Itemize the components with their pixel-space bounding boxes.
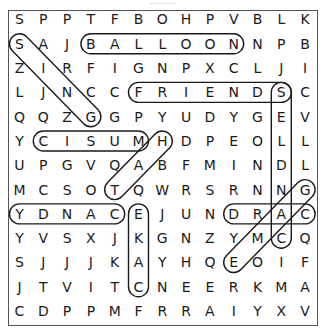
grid-cell[interactable]: R [222, 275, 246, 299]
grid-cell[interactable]: J [103, 226, 127, 250]
grid-cell[interactable]: F [293, 250, 317, 274]
grid-cell[interactable]: Z [198, 226, 222, 250]
grid-cell[interactable]: A [127, 153, 151, 177]
grid-cell[interactable]: B [150, 153, 174, 177]
grid-cell[interactable]: C [31, 129, 55, 153]
grid-cell[interactable]: T [103, 177, 127, 201]
grid-cell[interactable]: S [8, 32, 32, 56]
grid-cell[interactable]: O [79, 177, 103, 201]
grid-cell[interactable]: N [150, 56, 174, 80]
grid-cell[interactable]: P [31, 153, 55, 177]
grid-cell[interactable]: I [31, 56, 55, 80]
grid-cell[interactable]: V [31, 226, 55, 250]
grid-cell[interactable]: O [198, 32, 222, 56]
grid-cell[interactable]: N [222, 80, 246, 104]
grid-cell[interactable]: V [55, 275, 79, 299]
grid-cell[interactable]: D [198, 105, 222, 129]
grid-cell[interactable]: Y [8, 202, 32, 226]
grid-cell[interactable]: Y [8, 226, 32, 250]
grid-cell[interactable]: C [103, 202, 127, 226]
grid-cell[interactable]: A [269, 202, 293, 226]
grid-cell[interactable]: M [269, 275, 293, 299]
grid-cell[interactable]: H [174, 7, 198, 31]
grid-cell[interactable]: A [31, 32, 55, 56]
grid-cell[interactable]: L [8, 80, 32, 104]
grid-cell[interactable]: N [150, 275, 174, 299]
grid-cell[interactable]: Y [8, 129, 32, 153]
grid-cell[interactable]: E [198, 80, 222, 104]
grid-cell[interactable]: Y [222, 226, 246, 250]
grid-cell[interactable]: L [269, 129, 293, 153]
grid-cell[interactable]: E [269, 105, 293, 129]
grid-cell[interactable]: L [150, 32, 174, 56]
grid-cell[interactable]: R [246, 202, 270, 226]
grid-cell[interactable]: C [8, 299, 32, 323]
grid-cell[interactable]: F [79, 56, 103, 80]
grid-cell[interactable]: B [246, 7, 270, 31]
grid-cell[interactable]: N [269, 177, 293, 201]
grid-cell[interactable]: N [174, 226, 198, 250]
grid-cell[interactable]: R [55, 56, 79, 80]
grid-cell[interactable]: J [31, 80, 55, 104]
grid-cell[interactable]: D [269, 153, 293, 177]
grid-cell[interactable]: C [293, 202, 317, 226]
grid-cell[interactable]: T [31, 275, 55, 299]
grid-cell[interactable]: P [55, 299, 79, 323]
grid-cell[interactable]: L [293, 153, 317, 177]
grid-cell[interactable]: G [127, 56, 151, 80]
grid-cell[interactable]: F [103, 7, 127, 31]
grid-cell[interactable]: L [246, 56, 270, 80]
grid-cell[interactable]: N [55, 202, 79, 226]
grid-cell[interactable]: P [198, 129, 222, 153]
grid-cell[interactable]: N [246, 32, 270, 56]
grid-cell[interactable]: C [127, 275, 151, 299]
grid-cell[interactable]: Y [150, 250, 174, 274]
grid-cell[interactable]: Q [103, 153, 127, 177]
grid-cell[interactable]: E [174, 275, 198, 299]
grid-cell[interactable]: S [8, 250, 32, 274]
grid-cell[interactable]: A [79, 202, 103, 226]
grid-cell[interactable]: J [150, 202, 174, 226]
grid-cell[interactable]: X [269, 299, 293, 323]
grid-cell[interactable]: D [222, 202, 246, 226]
grid-cell[interactable]: R [174, 177, 198, 201]
grid-cell[interactable]: P [269, 32, 293, 56]
grid-cell[interactable]: S [8, 7, 32, 31]
grid-cell[interactable]: O [174, 32, 198, 56]
grid-cell[interactable]: A [127, 250, 151, 274]
grid-cell[interactable]: R [150, 80, 174, 104]
grid-cell[interactable]: G [79, 105, 103, 129]
grid-cell[interactable]: U [174, 202, 198, 226]
grid-cell[interactable]: X [198, 56, 222, 80]
grid-cell[interactable]: D [31, 202, 55, 226]
grid-cell[interactable]: H [174, 250, 198, 274]
grid-cell[interactable]: Q [293, 226, 317, 250]
grid-cell[interactable]: G [55, 153, 79, 177]
grid-cell[interactable]: A [103, 32, 127, 56]
grid-cell[interactable]: V [293, 105, 317, 129]
grid-cell[interactable]: M [198, 153, 222, 177]
grid-cell[interactable]: B [127, 7, 151, 31]
grid-cell[interactable]: C [293, 80, 317, 104]
grid-cell[interactable]: Q [31, 105, 55, 129]
grid-cell[interactable]: X [79, 226, 103, 250]
grid-cell[interactable]: I [293, 56, 317, 80]
grid-cell[interactable]: K [103, 250, 127, 274]
grid-cell[interactable]: E [222, 129, 246, 153]
grid-cell[interactable]: D [174, 129, 198, 153]
grid-cell[interactable]: R [174, 299, 198, 323]
grid-cell[interactable]: T [79, 7, 103, 31]
grid-cell[interactable]: J [79, 250, 103, 274]
grid-cell[interactable]: M [127, 129, 151, 153]
grid-cell[interactable]: P [31, 7, 55, 31]
grid-cell[interactable]: I [222, 299, 246, 323]
grid-cell[interactable]: W [150, 177, 174, 201]
grid-cell[interactable]: A [198, 299, 222, 323]
grid-cell[interactable]: C [31, 177, 55, 201]
grid-cell[interactable]: K [293, 7, 317, 31]
grid-cell[interactable]: N [222, 32, 246, 56]
grid-cell[interactable]: C [269, 226, 293, 250]
grid-cell[interactable]: D [31, 299, 55, 323]
grid-cell[interactable]: Z [55, 105, 79, 129]
grid-cell[interactable]: Y [150, 105, 174, 129]
